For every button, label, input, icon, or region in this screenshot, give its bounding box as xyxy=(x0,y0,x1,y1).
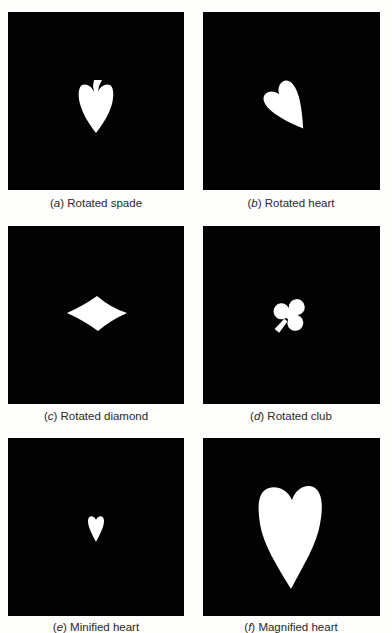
caption-c: (c) Rotated diamond xyxy=(8,410,184,422)
caption-f: (f) Magnified heart xyxy=(203,621,379,633)
caption-b: (b) Rotated heart xyxy=(203,197,379,209)
heart-shape-icon xyxy=(8,438,184,616)
caption-a: (a) Rotated spade xyxy=(8,197,184,209)
panel-c-rotated-diamond xyxy=(8,226,184,404)
panel-a-rotated-spade xyxy=(8,12,184,190)
caption-d: (d) Rotated club xyxy=(203,410,379,422)
panel-f-magnified-heart xyxy=(203,438,380,616)
spade-shape-icon xyxy=(8,12,184,190)
panel-b-rotated-heart xyxy=(203,12,380,190)
heart-shape-icon xyxy=(203,438,380,616)
panel-e-minified-heart xyxy=(8,438,184,616)
caption-e: (e) Minified heart xyxy=(8,621,184,633)
heart-shape-icon xyxy=(203,12,380,190)
diamond-shape-icon xyxy=(8,226,184,404)
club-shape-icon xyxy=(203,226,380,404)
panel-d-rotated-club xyxy=(203,226,380,404)
